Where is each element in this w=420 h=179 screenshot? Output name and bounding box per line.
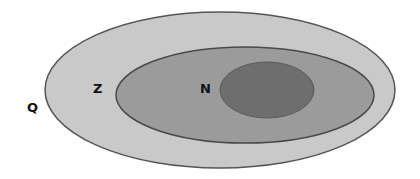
set-z-label: Z	[93, 82, 102, 95]
set-n-label: N	[200, 82, 211, 95]
set-n-ellipse	[220, 62, 314, 118]
set-q-label: Q	[27, 101, 38, 114]
